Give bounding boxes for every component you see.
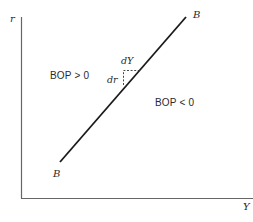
bb-curve [60, 17, 186, 162]
slope-label-dr: dr [107, 75, 118, 85]
y-axis-label: r [10, 14, 15, 24]
x-axis-label: Y [243, 202, 250, 212]
slope-label-dy: dY [121, 56, 133, 66]
region-label-bop-negative: BOP < 0 [155, 98, 194, 108]
curve-label-top: B [193, 10, 200, 20]
region-label-bop-positive: BOP > 0 [50, 71, 89, 81]
diagram-canvas [0, 0, 253, 222]
curve-label-bottom: B [53, 169, 60, 179]
